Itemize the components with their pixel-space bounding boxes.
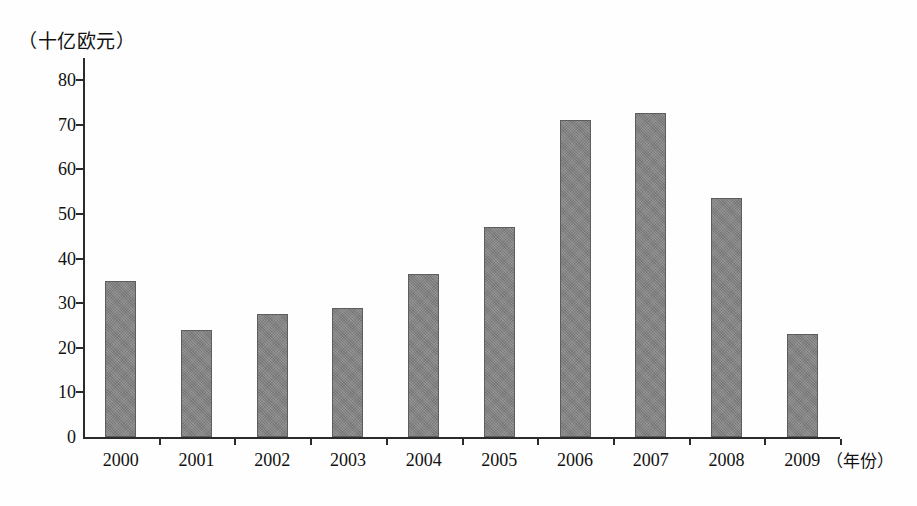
x-axis-tick-mark bbox=[840, 439, 842, 445]
x-axis-tick-mark bbox=[310, 439, 312, 445]
bar-2005 bbox=[484, 227, 515, 437]
x-axis-unit-label: （年份） bbox=[826, 450, 894, 472]
x-axis-tick-mark bbox=[386, 439, 388, 445]
y-axis-tick-label: 70 bbox=[32, 116, 76, 134]
y-axis-tick-label: 80 bbox=[32, 71, 76, 89]
x-axis-tick-label: 2001 bbox=[159, 449, 235, 471]
x-axis-tick-mark bbox=[764, 439, 766, 445]
y-axis-tick-mark bbox=[76, 168, 83, 170]
y-axis-line bbox=[83, 58, 85, 439]
x-axis-tick-mark bbox=[159, 439, 161, 445]
y-axis-tick-label: 40 bbox=[32, 250, 76, 268]
y-axis-tick-label: 50 bbox=[32, 205, 76, 223]
y-axis-tick-mark bbox=[76, 213, 83, 215]
x-axis-tick-label: 2005 bbox=[461, 449, 537, 471]
bar-2007 bbox=[635, 113, 666, 437]
bar-chart-figure: （十亿欧元） 01020304050607080 200020012002200… bbox=[0, 0, 917, 506]
y-axis-tick-mark bbox=[76, 347, 83, 349]
y-axis-tick-label: 30 bbox=[32, 294, 76, 312]
x-axis-tick-label: 2008 bbox=[688, 449, 764, 471]
bar-2002 bbox=[257, 314, 288, 437]
y-axis-tick-mark bbox=[76, 391, 83, 393]
y-axis-tick-mark bbox=[76, 302, 83, 304]
bar-2009 bbox=[787, 334, 818, 437]
y-axis-tick-label: 20 bbox=[32, 339, 76, 357]
x-axis-tick-mark bbox=[689, 439, 691, 445]
y-axis-tick-mark bbox=[76, 258, 83, 260]
x-axis-tick-label: 2006 bbox=[537, 449, 613, 471]
bar-2000 bbox=[105, 281, 136, 437]
y-axis-tick-mark bbox=[76, 124, 83, 126]
x-axis-tick-label: 2000 bbox=[83, 449, 159, 471]
x-axis-tick-mark bbox=[234, 439, 236, 445]
bar-2008 bbox=[711, 198, 742, 437]
x-axis-tick-label: 2003 bbox=[310, 449, 386, 471]
y-axis-tick-label: 60 bbox=[32, 160, 76, 178]
bar-2001 bbox=[181, 330, 212, 437]
y-axis-tick-mark bbox=[76, 79, 83, 81]
x-axis-tick-mark bbox=[537, 439, 539, 445]
bar-2003 bbox=[332, 308, 363, 437]
x-axis-tick-label: 2002 bbox=[234, 449, 310, 471]
x-axis-tick-label: 2004 bbox=[386, 449, 462, 471]
bar-2004 bbox=[408, 274, 439, 437]
x-axis-tick-mark bbox=[462, 439, 464, 445]
y-axis-tick-labels: 01020304050607080 bbox=[24, 0, 76, 506]
x-axis-tick-label: 2007 bbox=[613, 449, 689, 471]
x-axis-tick-mark bbox=[613, 439, 615, 445]
y-axis-tick-label: 10 bbox=[32, 383, 76, 401]
bar-2006 bbox=[560, 120, 591, 437]
y-axis-tick-label: 0 bbox=[32, 428, 76, 446]
